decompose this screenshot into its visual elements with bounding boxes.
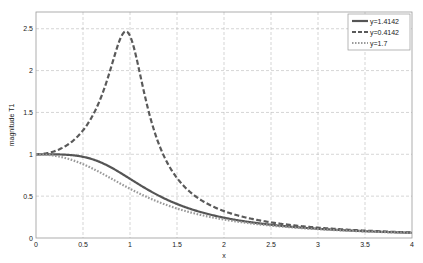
x-tick-label: 2.5 <box>266 241 276 248</box>
y-tick-label: 0 <box>29 235 33 242</box>
x-tick-label: 0.5 <box>78 241 88 248</box>
x-tick-label: 3.5 <box>360 241 370 248</box>
legend-label-1: y=1.4142 <box>370 18 399 26</box>
x-tick-label: 0 <box>34 241 38 248</box>
x-axis-ticks: 00.511.522.533.54 <box>34 241 414 248</box>
x-axis-label: x <box>222 252 226 259</box>
y-tick-label: 2 <box>29 67 33 74</box>
legend-label-3: y=1.7 <box>370 40 387 48</box>
legend-label-2: y=0.4142 <box>370 29 399 37</box>
x-tick-label: 1.5 <box>172 241 182 248</box>
y-tick-label: 0.5 <box>23 193 33 200</box>
legend: y=1.4142 y=0.4142 y=1.7 <box>348 14 410 50</box>
y-tick-label: 2.5 <box>23 25 33 32</box>
x-tick-label: 1 <box>128 241 132 248</box>
y-tick-label: 1 <box>29 151 33 158</box>
y-tick-label: 1.5 <box>23 109 33 116</box>
chart: 00.511.522.533.54 00.511.522.5 x magnitu… <box>0 0 423 263</box>
y-axis-label: magnitude T1 <box>8 104 16 147</box>
x-tick-label: 4 <box>410 241 414 248</box>
x-tick-label: 2 <box>222 241 226 248</box>
x-tick-label: 3 <box>316 241 320 248</box>
y-axis-ticks: 00.511.522.5 <box>23 25 33 241</box>
